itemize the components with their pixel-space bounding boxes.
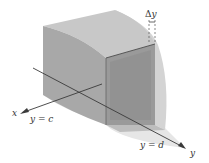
delta-label: Δy: [145, 9, 158, 19]
y-equals-d-label: y = d: [139, 140, 164, 150]
solid-diagram: Δy x y y = c y = d: [0, 0, 209, 163]
slab-inner-shade: [110, 50, 151, 120]
y-axis-label: y: [189, 148, 196, 158]
x-axis-arrowhead: [20, 108, 29, 114]
y-equals-c-label: y = c: [29, 114, 53, 124]
x-axis-label: x: [12, 108, 17, 118]
